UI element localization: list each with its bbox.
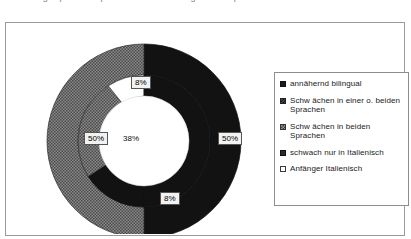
clipped-caption-line: Abbildung: Sprachkompetenz – Einschätzun… <box>0 0 411 3</box>
legend-item: Schw ächen in beiden Sprachen <box>280 122 404 141</box>
legend-item-label: annähernd bilingual <box>290 79 362 89</box>
legend-swatch-icon <box>280 98 286 104</box>
chart-legend: annähernd bilingual Schw ächen in einer … <box>274 72 409 206</box>
legend-item: Schw ächen in einer o. beiden Sprachen <box>280 96 404 115</box>
legend-item: Anfänger Italienisch <box>280 164 404 174</box>
chart-frame: 50% 50% 8% 38% 8% annähernd bilingual Sc… <box>5 22 405 236</box>
doughnut-center-hole <box>99 96 189 186</box>
legend-swatch-icon <box>280 166 286 172</box>
value-label-outer-left: 50% <box>84 132 108 145</box>
legend-swatch-icon <box>280 81 286 87</box>
legend-item-label: Schw ächen in einer o. beiden Sprachen <box>290 96 404 115</box>
doughnut-chart: 50% 50% 8% 38% 8% <box>42 20 252 234</box>
clipped-caption-text: Abbildung: Sprachkompetenz – Einschätzun… <box>0 0 411 3</box>
legend-swatch-icon <box>280 150 286 156</box>
legend-item-label: Schw ächen in beiden Sprachen <box>290 122 404 141</box>
value-label-inner-top: 8% <box>131 76 151 89</box>
doughnut-svg <box>42 20 252 234</box>
legend-swatch-icon <box>280 124 286 130</box>
value-label-inner-left: 38% <box>123 134 139 143</box>
legend-item-label: schwach nur in Italienisch <box>290 148 384 158</box>
legend-item: schwach nur in Italienisch <box>280 148 404 158</box>
legend-item-label: Anfänger Italienisch <box>290 164 362 174</box>
value-label-inner-bottom: 8% <box>160 192 180 205</box>
value-label-outer-right: 50% <box>218 132 242 145</box>
legend-item: annähernd bilingual <box>280 79 404 89</box>
